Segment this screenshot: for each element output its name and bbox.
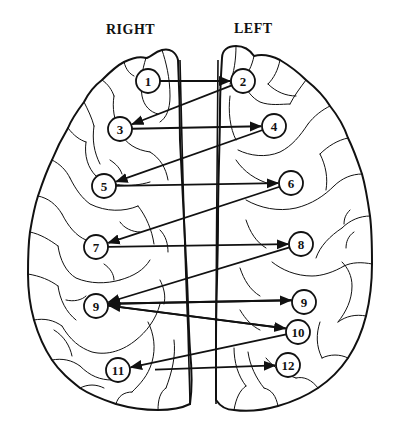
node-n7: 7 <box>84 235 108 259</box>
node-n8: 8 <box>289 232 313 256</box>
arrow-n4-to-n5 <box>116 130 262 182</box>
brain-illustration: 1234567899101112 <box>0 0 401 430</box>
node-n1: 1 <box>136 69 160 93</box>
node-label: 9 <box>301 295 308 310</box>
node-label: 3 <box>117 122 124 137</box>
node-label: 5 <box>101 179 108 194</box>
node-label: 10 <box>292 325 305 340</box>
node-n5: 5 <box>92 174 116 198</box>
arrow-n3-to-n4 <box>132 126 261 129</box>
node-n4: 4 <box>262 114 286 138</box>
node-n9l: 9 <box>292 290 316 314</box>
node-label: 12 <box>282 358 295 373</box>
brain-diagram: RIGHT LEFT <box>0 0 401 430</box>
node-n12: 12 <box>276 353 300 377</box>
node-label: 6 <box>288 176 295 191</box>
arrow-n9l-to-n9r <box>109 300 292 304</box>
node-n9r: 9 <box>84 294 108 318</box>
node-label: 4 <box>271 119 278 134</box>
node-label: 8 <box>298 237 305 252</box>
node-n10: 10 <box>286 320 310 344</box>
arrow-n8-to-n9r <box>108 247 289 302</box>
node-label: 11 <box>112 363 124 378</box>
arrow-n6-to-n7 <box>108 187 279 243</box>
fissure-right-edge <box>180 60 190 405</box>
node-n6: 6 <box>279 171 303 195</box>
node-n2: 2 <box>231 69 255 93</box>
arrow-n7-to-n8 <box>108 244 288 247</box>
node-label: 2 <box>240 74 247 89</box>
node-label: 1 <box>145 74 152 89</box>
node-label: 9 <box>93 299 100 314</box>
node-n11: 11 <box>106 358 130 382</box>
node-label: 7 <box>93 240 100 255</box>
node-n3: 3 <box>108 117 132 141</box>
right-hemisphere-outline <box>28 49 192 410</box>
arrow-n10-to-n9r <box>109 306 286 329</box>
